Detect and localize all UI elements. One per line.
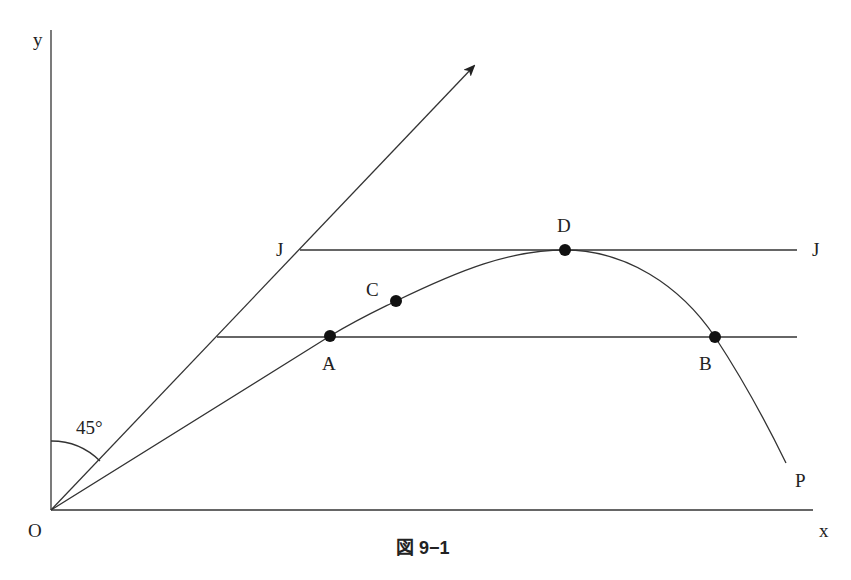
diagram-figure: y x O 45° J J A C D B P 図 9−1: [0, 0, 851, 580]
label-C: C: [366, 279, 379, 300]
point-D: [559, 244, 571, 256]
angle-arc-icon: [51, 441, 100, 461]
figure-caption: 図 9−1: [396, 538, 450, 558]
label-J-left: J: [276, 239, 283, 260]
label-J-right: J: [812, 239, 819, 260]
label-P: P: [795, 470, 806, 491]
point-C: [390, 295, 402, 307]
label-B: B: [699, 353, 712, 374]
curve-OP: [51, 250, 786, 510]
point-A: [324, 330, 336, 342]
ray-45-degree: [51, 66, 474, 510]
label-D: D: [557, 215, 571, 236]
angle-label: 45°: [76, 417, 103, 438]
y-axis-label: y: [33, 29, 43, 50]
point-B: [709, 331, 721, 343]
origin-label: O: [28, 520, 42, 541]
label-A: A: [322, 353, 336, 374]
x-axis-label: x: [819, 520, 829, 541]
